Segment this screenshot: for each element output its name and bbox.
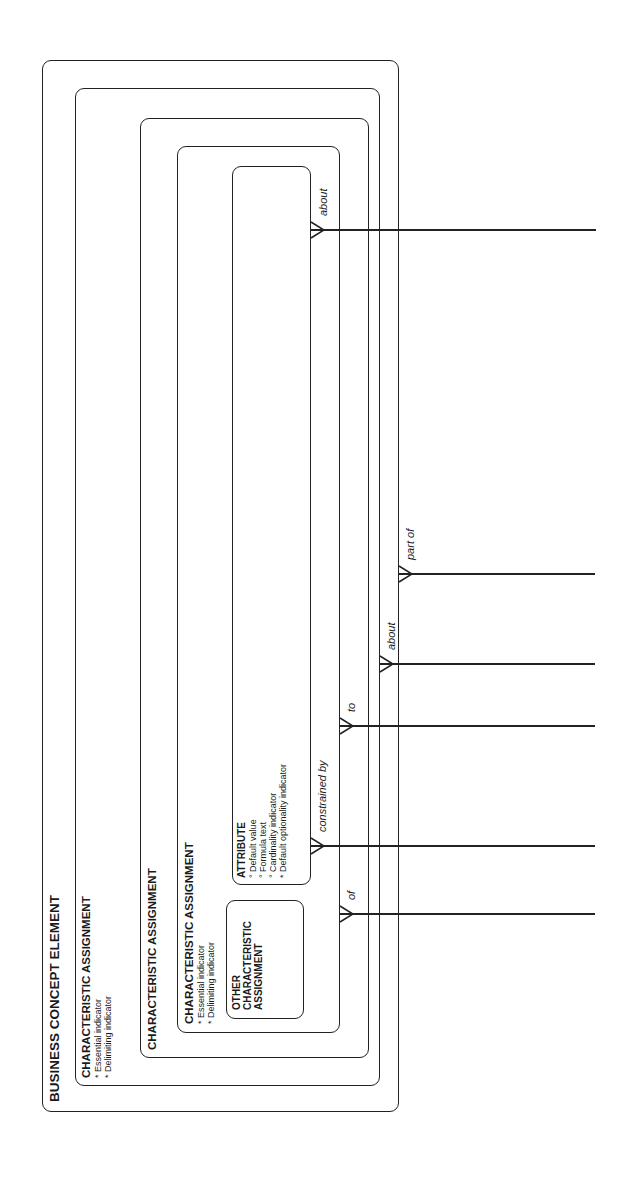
crows-foot-icon (340, 717, 354, 735)
relationship-label-of: of (345, 891, 357, 900)
attribute-default-optionality-indicator: * Default optionality indicator (279, 764, 289, 878)
crows-foot-icon (399, 565, 413, 583)
crows-foot-icon (380, 655, 394, 673)
relationship-label-to: to (345, 703, 357, 712)
relationship-line-of (340, 913, 595, 915)
relationship-label-part-of: part of (404, 529, 416, 560)
entity-title-business-concept-element: BUSINESS CONCEPT ELEMENT (48, 895, 62, 1102)
entity-title-other-line1: OTHER (232, 975, 243, 1010)
attribute-delimiting-indicator-1: * Delimiting indicator (104, 996, 113, 1078)
crows-foot-icon (311, 837, 325, 855)
entity-attribute (232, 166, 311, 885)
relationship-label-about-mid: about (385, 622, 397, 650)
entity-title-other-line3: ASSIGNMENT (254, 943, 265, 1010)
relationship-line-about-top (311, 229, 596, 231)
crows-foot-icon (340, 905, 354, 923)
crows-foot-icon (311, 221, 325, 239)
entity-title-characteristic-assignment-1: CHARACTERISTIC ASSIGNMENT (80, 896, 92, 1078)
entity-title-attribute: ATTRIBUTE (237, 822, 248, 878)
relationship-label-about-top: about (317, 188, 329, 216)
relationship-line-to (340, 725, 595, 727)
entity-title-characteristic-assignment-3: CHARACTERISTIC ASSIGNMENT (183, 842, 195, 1024)
entity-title-characteristic-assignment-2: CHARACTERISTIC ASSIGNMENT (146, 868, 158, 1050)
relationship-line-constrained-by (311, 845, 595, 847)
attribute-delimiting-indicator-3: * Delimiting indicator (207, 942, 216, 1024)
relationship-label-constrained-by: constrained by (316, 760, 328, 832)
relationship-line-about-mid (380, 663, 595, 665)
entity-title-other-line2: CHARACTERISTIC (243, 921, 254, 1010)
relationship-line-part-of (399, 573, 595, 575)
